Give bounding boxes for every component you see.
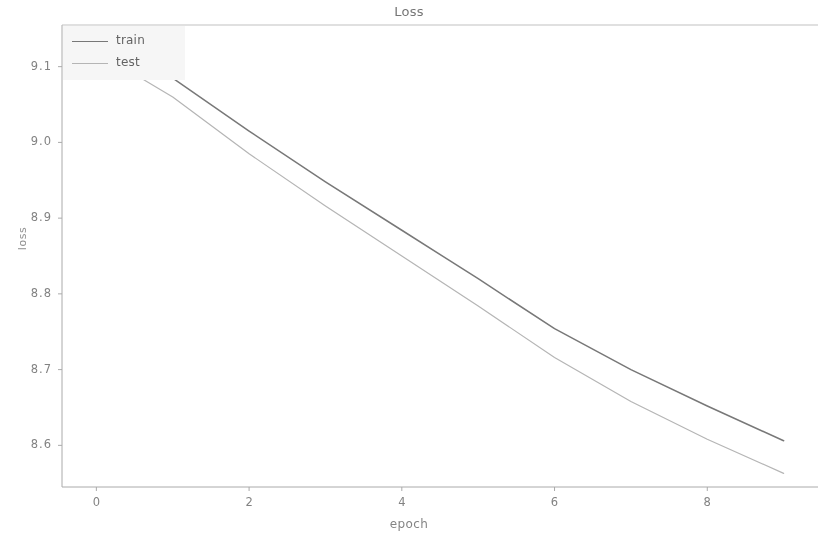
- x-tick-label: 2: [234, 495, 264, 509]
- x-tick-label: 8: [692, 495, 722, 509]
- legend-item-train: train: [64, 31, 184, 53]
- legend-swatch-train: [72, 41, 108, 42]
- series-line-train: [96, 40, 783, 441]
- x-axis-label: epoch: [0, 517, 818, 531]
- y-tick-label: 8.8: [12, 286, 52, 300]
- plot-area: [0, 0, 818, 537]
- y-tick-label: 9.0: [12, 134, 52, 148]
- y-tick-label: 8.6: [12, 437, 52, 451]
- x-axis-ticks: [96, 487, 707, 491]
- legend-item-test: test: [64, 53, 184, 75]
- y-tick-label: 8.7: [12, 362, 52, 376]
- chart-legend: train test: [63, 26, 185, 80]
- x-tick-label: 4: [387, 495, 417, 509]
- y-tick-label: 9.1: [12, 59, 52, 73]
- y-axis-label: loss: [16, 209, 29, 269]
- legend-label-test: test: [116, 55, 140, 69]
- legend-swatch-test: [72, 63, 108, 64]
- data-series-group: [96, 40, 783, 473]
- x-tick-label: 6: [540, 495, 570, 509]
- x-tick-label: 0: [81, 495, 111, 509]
- series-line-test: [96, 52, 783, 474]
- figure-canvas: Loss 8.68.78.88.99.09.1 02468 loss epoch…: [0, 0, 818, 537]
- legend-label-train: train: [116, 33, 145, 47]
- y-axis-ticks: [58, 67, 62, 446]
